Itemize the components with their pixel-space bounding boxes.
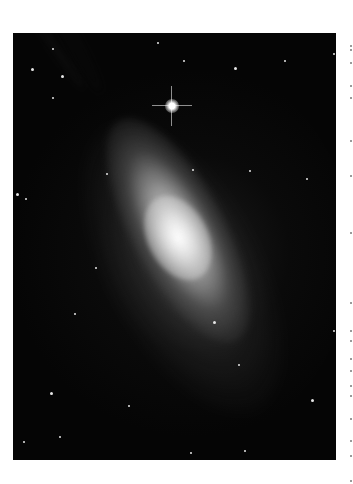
star bbox=[52, 48, 54, 50]
star bbox=[213, 321, 216, 324]
star bbox=[128, 405, 130, 407]
side-mark bbox=[350, 330, 352, 332]
side-mark bbox=[350, 480, 352, 482]
star bbox=[234, 67, 237, 70]
galaxy-photo bbox=[13, 33, 336, 460]
star bbox=[74, 313, 76, 315]
star bbox=[238, 364, 240, 366]
star bbox=[31, 68, 34, 71]
star bbox=[311, 399, 314, 402]
side-mark bbox=[350, 440, 352, 442]
side-mark bbox=[350, 418, 352, 420]
star bbox=[244, 450, 246, 452]
side-mark bbox=[350, 358, 352, 360]
side-mark bbox=[350, 97, 352, 99]
side-mark bbox=[350, 140, 352, 142]
side-mark bbox=[350, 49, 352, 51]
star bbox=[25, 198, 27, 200]
star bbox=[333, 330, 335, 332]
star bbox=[23, 441, 25, 443]
side-mark bbox=[350, 370, 352, 372]
side-mark bbox=[350, 395, 352, 397]
star bbox=[157, 42, 159, 44]
side-mark bbox=[350, 232, 352, 234]
star bbox=[95, 267, 97, 269]
side-mark bbox=[350, 455, 352, 457]
star bbox=[306, 178, 308, 180]
side-mark bbox=[350, 175, 352, 177]
side-mark bbox=[350, 45, 352, 47]
side-mark bbox=[350, 385, 352, 387]
bright-foreground-star bbox=[165, 99, 179, 113]
side-mark bbox=[350, 302, 352, 304]
star bbox=[183, 60, 185, 62]
star bbox=[59, 436, 61, 438]
star bbox=[52, 97, 54, 99]
side-mark bbox=[350, 62, 352, 64]
star bbox=[50, 392, 53, 395]
star bbox=[190, 452, 192, 454]
star bbox=[106, 173, 108, 175]
star bbox=[192, 169, 194, 171]
star bbox=[333, 53, 335, 55]
star bbox=[61, 75, 64, 78]
side-mark bbox=[350, 340, 352, 342]
star bbox=[16, 193, 19, 196]
side-mark bbox=[350, 85, 352, 87]
star bbox=[249, 170, 251, 172]
star bbox=[284, 60, 286, 62]
